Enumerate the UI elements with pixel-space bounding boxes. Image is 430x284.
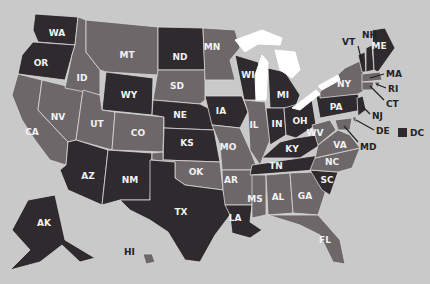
state-ia [205, 96, 248, 128]
state-label-ky: KY [285, 144, 299, 154]
state-label-co: CO [131, 128, 146, 138]
state-label-nv: NV [51, 112, 66, 122]
state-label-mt: MT [119, 50, 135, 60]
state-label-wa: WA [49, 28, 66, 38]
lake-superior [235, 30, 282, 52]
state-label-wi: WI [241, 70, 254, 80]
state-label-ks: KS [180, 138, 193, 148]
state-nd [158, 27, 205, 70]
state-label-ia: IA [216, 106, 226, 116]
state-hi [143, 254, 155, 264]
dc-label: DC [410, 128, 424, 138]
state-fl [268, 215, 345, 264]
state-ak [10, 195, 95, 270]
state-label-ga: GA [298, 191, 312, 201]
state-md [335, 118, 352, 130]
us-choropleth-map: WAORCANVIDMTWYUTCOAZNMNDSDNEKSOKTXMNIAMO… [0, 0, 430, 284]
state-label-ut: UT [90, 119, 104, 129]
state-label-tx: TX [174, 207, 187, 217]
state-label-sc: SC [320, 175, 333, 185]
state-label-ny: NY [337, 79, 352, 89]
state-label-ak: AK [37, 218, 52, 228]
state-label-fl: FL [319, 235, 331, 245]
state-label-nm: NM [122, 175, 139, 185]
callout-label-vt: VT [342, 37, 356, 47]
state-label-ar: AR [224, 175, 238, 185]
state-label-ca: CA [25, 127, 39, 137]
state-label-wv: WV [307, 128, 324, 138]
state-label-in: IN [272, 119, 283, 129]
state-label-la: LA [229, 213, 242, 223]
state-label-ne: NE [173, 110, 187, 120]
state-label-nd: ND [172, 52, 187, 62]
callout-label-ct: CT [386, 99, 400, 109]
state-label-il: IL [249, 120, 258, 130]
state-label-nc: NC [325, 157, 340, 167]
state-mn [203, 28, 240, 80]
callout-label-md: MD [360, 142, 376, 152]
callout-label-ma: MA [386, 69, 402, 79]
dc-legend: DC [398, 128, 424, 138]
state-label-or: OR [34, 58, 49, 68]
dc-swatch [398, 128, 407, 137]
state-label-mn: MN [204, 42, 221, 52]
state-label-ms: MS [247, 194, 262, 204]
state-label-sd: SD [170, 81, 184, 91]
state-de [352, 116, 356, 124]
state-label-id: ID [77, 73, 88, 83]
leader-line [356, 120, 374, 130]
state-label-pa: PA [330, 102, 343, 112]
state-label-ok: OK [189, 167, 205, 177]
state-label-mo: MO [220, 142, 237, 152]
leader-line [370, 86, 384, 100]
callout-label-de: DE [376, 126, 390, 136]
state-nj [357, 96, 366, 116]
state-label-al: AL [272, 192, 285, 202]
state-label-mi: MI [277, 90, 289, 100]
callout-label-nh: NH [362, 30, 377, 40]
state-label-va: VA [333, 140, 346, 150]
callout-label-nj: NJ [372, 111, 383, 121]
state-label-oh: OH [292, 116, 307, 126]
callout-label-hi: HI [124, 247, 135, 257]
state-label-wy: WY [121, 90, 138, 100]
state-label-tn: TN [269, 161, 283, 171]
state-label-me: ME [371, 41, 386, 51]
state-label-az: AZ [81, 171, 95, 181]
callout-label-ri: RI [388, 84, 398, 94]
